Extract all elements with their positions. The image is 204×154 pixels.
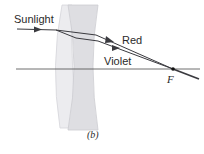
figure-caption: (b) — [87, 130, 99, 140]
sunlight-arrow-icon — [34, 27, 42, 33]
red-label: Red — [122, 35, 142, 46]
doublet-lens-diagram: Sunlight Red Violet F (b) — [0, 0, 204, 154]
violet-label: Violet — [104, 56, 131, 67]
violet-arrow-icon — [112, 45, 120, 51]
sunlight-label: Sunlight — [14, 14, 54, 25]
converged-ray — [173, 69, 199, 79]
red-arrow-icon — [105, 36, 114, 43]
focal-point — [171, 67, 175, 71]
focal-point-label: F — [167, 74, 174, 85]
